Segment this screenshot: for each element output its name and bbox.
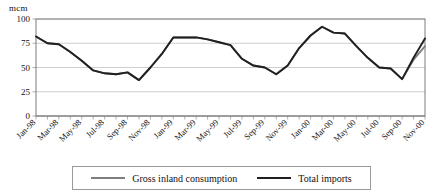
x-axis-labels-group: Jan-98Mar-98May-98Jul-98Sep-98Nov-98Jan-… xyxy=(14,117,426,143)
legend-label-total-imports: Total imports xyxy=(298,173,351,184)
x-tick-label: Jan-98 xyxy=(14,117,37,140)
line-chart-svg: 0255075100 Jan-98Mar-98May-98Jul-98Sep-9… xyxy=(0,0,441,160)
y-tick-label: 100 xyxy=(17,14,31,24)
x-tick-label: Jul-00 xyxy=(358,117,380,139)
x-tick-label: May-00 xyxy=(331,117,357,143)
y-tick-label: 50 xyxy=(21,63,31,73)
black-line-swatch-icon xyxy=(257,177,291,179)
x-tick-marks-group xyxy=(36,116,425,120)
legend-item-gross-inland-consumption: Gross inland consumption xyxy=(91,173,237,184)
chart-figure: mcm 0255075100 Jan-98Mar-98May-98Jul-98S… xyxy=(0,0,441,193)
chart-legend: Gross inland consumption Total imports xyxy=(72,166,371,190)
x-tick-label: Jul-99 xyxy=(221,117,243,139)
x-tick-label: Mar-98 xyxy=(35,117,60,142)
x-tick-label: May-99 xyxy=(194,117,220,143)
legend-item-total-imports: Total imports xyxy=(257,173,351,184)
x-tick-label: Nov-98 xyxy=(126,117,152,143)
y-tick-labels-group: 0255075100 xyxy=(17,14,31,121)
y-tick-label: 25 xyxy=(21,87,31,97)
x-tick-label: May-98 xyxy=(57,117,83,143)
x-tick-label: Nov-99 xyxy=(263,117,289,143)
x-tick-label: Sep-98 xyxy=(105,117,129,141)
series-line-gross-inland-consumption xyxy=(36,27,425,80)
plot-area: 0255075100 Jan-98Mar-98May-98Jul-98Sep-9… xyxy=(0,0,441,160)
y-tick-label: 75 xyxy=(21,38,31,48)
x-tick-label: Jan-00 xyxy=(289,117,312,140)
legend-label-gross-inland-consumption: Gross inland consumption xyxy=(132,173,237,184)
x-tick-label: Mar-00 xyxy=(310,117,335,142)
x-tick-label: Sep-00 xyxy=(379,117,403,141)
x-tick-label: Mar-99 xyxy=(172,117,197,142)
x-tick-label: Sep-99 xyxy=(242,117,266,141)
x-tick-label: Jul-98 xyxy=(84,117,106,139)
x-tick-label: Nov-00 xyxy=(401,117,427,143)
gridlines-group xyxy=(33,19,426,116)
series-line-total-imports xyxy=(36,27,425,80)
grey-line-swatch-icon xyxy=(91,177,125,179)
x-tick-label: Jan-99 xyxy=(151,117,174,140)
